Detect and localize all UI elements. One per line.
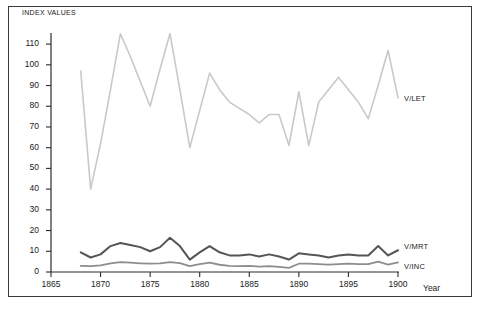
series-line-vmrt	[81, 238, 398, 260]
x-tick-label: 1880	[183, 279, 217, 289]
y-tick-label: 60	[17, 142, 39, 152]
y-tick-label: 10	[17, 245, 39, 255]
series-line-vlet	[81, 34, 398, 189]
x-tick-label: 1875	[133, 279, 167, 289]
chart-figure: INDEX VALUES Year V/LET V/MRT V/INC 0102…	[0, 0, 498, 312]
y-tick-label: 110	[17, 38, 39, 48]
series-line-vinc	[81, 262, 398, 268]
series-label-vlet: V/LET	[404, 94, 426, 103]
x-tick-label: 1885	[232, 279, 266, 289]
series-label-vmrt: V/MRT	[404, 242, 428, 251]
y-tick-label: 20	[17, 225, 39, 235]
x-tick-label: 1890	[282, 279, 316, 289]
x-tick-label: 1870	[84, 279, 118, 289]
x-tick-label: 1900	[381, 279, 415, 289]
x-tick-label: 1895	[331, 279, 365, 289]
y-tick-label: 90	[17, 80, 39, 90]
y-tick-label: 100	[17, 59, 39, 69]
y-tick-label: 0	[17, 266, 39, 276]
y-tick-label: 30	[17, 204, 39, 214]
y-tick-label: 80	[17, 100, 39, 110]
x-tick-label: 1865	[34, 279, 68, 289]
y-tick-label: 70	[17, 121, 39, 131]
y-tick-label: 50	[17, 162, 39, 172]
series-label-vinc: V/INC	[404, 262, 425, 271]
y-tick-label: 40	[17, 183, 39, 193]
